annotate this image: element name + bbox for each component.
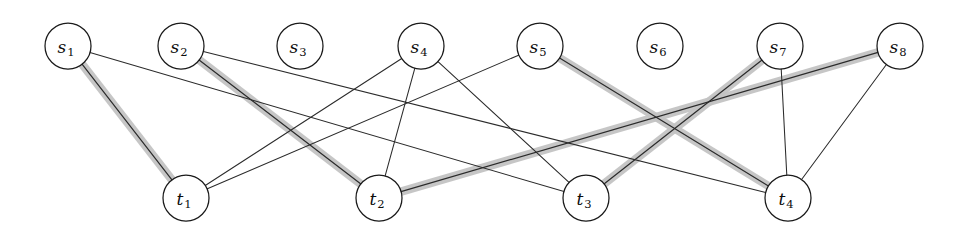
node-s1[interactable]: s1 [45, 23, 91, 69]
edge-s8-t2 [400, 52, 879, 192]
node-s2[interactable]: s2 [158, 23, 204, 69]
node-t1[interactable]: t1 [163, 175, 209, 221]
node-t4[interactable]: t4 [765, 175, 811, 221]
node-t3[interactable]: t3 [563, 175, 609, 221]
node-s3[interactable]: s3 [277, 23, 323, 69]
edge-s1-t1 [81, 63, 172, 180]
node-s7[interactable]: s7 [757, 23, 803, 69]
highlighted-edge-halos [81, 52, 878, 192]
node-t2[interactable]: t2 [356, 175, 402, 221]
graph-canvas: s1s2s3s4s5s6s7s8t1t2t3t4 [0, 0, 960, 242]
node-s4[interactable]: s4 [398, 23, 444, 69]
edge-s2-t2 [198, 59, 361, 184]
edge-s8-t4 [801, 64, 887, 181]
edge-s4-t2 [385, 67, 415, 177]
node-s5[interactable]: s5 [517, 23, 563, 69]
node-s6[interactable]: s6 [637, 23, 683, 69]
node-s8[interactable]: s8 [877, 23, 923, 69]
bipartite-graph-figure: s1s2s3s4s5s6s7s8t1t2t3t4 [0, 0, 960, 242]
